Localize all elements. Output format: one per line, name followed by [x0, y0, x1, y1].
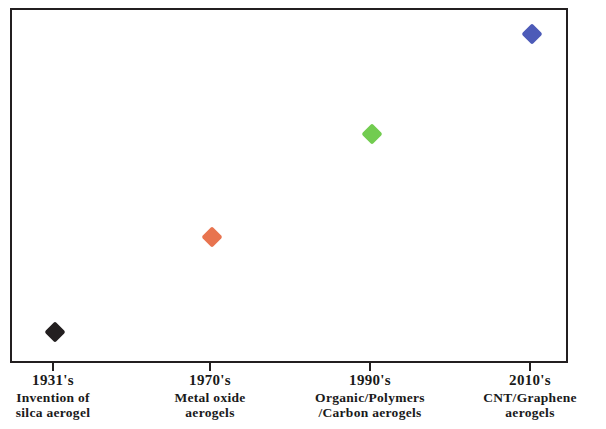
- x-axis-label-2010-line2: aerogels: [445, 405, 606, 420]
- x-axis-tick-1931: [52, 363, 54, 371]
- x-axis-tick-1970: [209, 363, 211, 371]
- x-axis-label-1990-line1: Organic/Polymers: [285, 390, 455, 405]
- x-axis-tick-2010: [529, 363, 531, 371]
- x-axis-label-1970: 1970's Metal oxide aerogels: [125, 372, 295, 420]
- x-axis-label-1931: 1931's Invention of silca aerogel: [0, 372, 138, 420]
- data-point-1990: [361, 123, 382, 144]
- x-axis-label-1931-line2: silca aerogel: [0, 405, 138, 420]
- x-axis-label-1990-era: 1990's: [285, 372, 455, 389]
- data-point-2010: [521, 23, 542, 44]
- plot-area: [12, 10, 566, 361]
- x-axis-tick-1990: [369, 363, 371, 371]
- aerogel-timeline-figure: 1931's Invention of silca aerogel 1970's…: [0, 0, 606, 429]
- x-axis-label-1970-era: 1970's: [125, 372, 295, 389]
- data-point-1931: [44, 321, 65, 342]
- x-axis-label-1970-line2: aerogels: [125, 405, 295, 420]
- data-point-1970: [201, 226, 222, 247]
- x-axis-label-1931-line1: Invention of: [0, 390, 138, 405]
- x-axis-label-2010: 2010's CNT/Graphene aerogels: [445, 372, 606, 420]
- plot-frame: [10, 8, 568, 363]
- x-axis-label-1990-line2: /Carbon aerogels: [285, 405, 455, 420]
- x-axis-label-1990: 1990's Organic/Polymers /Carbon aerogels: [285, 372, 455, 420]
- x-axis-label-2010-era: 2010's: [445, 372, 606, 389]
- x-axis-label-1931-era: 1931's: [0, 372, 138, 389]
- x-axis-label-1970-line1: Metal oxide: [125, 390, 295, 405]
- x-axis-label-2010-line1: CNT/Graphene: [445, 390, 606, 405]
